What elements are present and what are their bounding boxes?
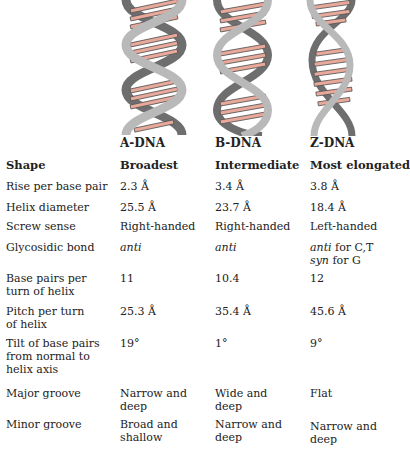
cell-bp-per-turn-z: 12 <box>310 272 324 285</box>
column-header-a-dna: A-DNA <box>120 137 165 150</box>
cell-pitch-z: 45.6 Å <box>310 305 346 318</box>
a-dna-helix-illustration <box>120 0 190 136</box>
column-header-z-dna: Z-DNA <box>310 137 354 150</box>
row-label-screw-sense: Screw sense <box>6 220 76 233</box>
cell-pitch-a: 25.3 Å <box>120 305 156 318</box>
z-dna-helix-illustration <box>302 0 360 136</box>
cell-shape-b: Intermediate <box>215 159 299 172</box>
cell-screw-b: Right-handed <box>215 220 290 233</box>
row-label-helix-diameter: Helix diameter <box>6 201 89 214</box>
value-line: deep <box>215 431 282 444</box>
value-line: Narrow and <box>215 418 282 431</box>
cell-diameter-z: 18.4 Å <box>310 201 346 214</box>
label-line: of helix <box>6 318 84 331</box>
b-dna-helix-illustration <box>212 0 274 136</box>
row-label-major-groove: Major groove <box>6 387 81 400</box>
cell-rise-b: 3.4 Å <box>215 180 244 193</box>
value-line: shallow <box>120 431 178 444</box>
cell-tilt-z: 9° <box>310 337 323 350</box>
anti-term: anti <box>310 241 332 254</box>
cell-glycosidic-z: anti for C,T syn for G <box>310 241 373 267</box>
cell-tilt-a: 19° <box>120 337 140 350</box>
value-line: deep <box>215 400 267 413</box>
label-line: turn of helix <box>6 285 87 298</box>
cell-minor-z: Narrow and deep <box>310 420 377 446</box>
cell-tilt-b: 1° <box>215 337 228 350</box>
cell-major-b: Wide and deep <box>215 387 267 413</box>
syn-suffix: for G <box>329 254 361 267</box>
label-line: helix axis <box>6 363 100 376</box>
cell-minor-a: Broad and shallow <box>120 418 178 444</box>
row-label-tilt: Tilt of base pairs from normal to helix … <box>6 337 100 376</box>
cell-major-z: Flat <box>310 387 332 400</box>
cell-shape-a: Broadest <box>120 159 178 172</box>
value-line: Narrow and <box>310 420 377 433</box>
row-label-minor-groove: Minor groove <box>6 418 82 431</box>
row-label-shape: Shape <box>6 159 45 172</box>
label-line: from normal to <box>6 350 100 363</box>
cell-rise-z: 3.8 Å <box>310 180 339 193</box>
cell-glycosidic-a: anti <box>120 241 142 254</box>
value-line: Broad and <box>120 418 178 431</box>
cell-major-a: Narrow and deep <box>120 387 187 413</box>
label-line: Pitch per turn <box>6 305 84 318</box>
cell-shape-z: Most elongated <box>310 159 410 172</box>
value-line: deep <box>310 433 377 446</box>
column-header-b-dna: B-DNA <box>215 137 261 150</box>
value-line: Narrow and <box>120 387 187 400</box>
cell-rise-a: 2.3 Å <box>120 180 149 193</box>
row-label-base-pairs-per-turn: Base pairs per turn of helix <box>6 272 87 298</box>
label-line: Base pairs per <box>6 272 87 285</box>
row-label-rise: Rise per base pair <box>6 180 107 193</box>
cell-minor-b: Narrow and deep <box>215 418 282 444</box>
label-line: Tilt of base pairs <box>6 337 100 350</box>
cell-screw-z: Left-handed <box>310 220 377 233</box>
anti-suffix: for C,T <box>332 241 374 254</box>
row-label-pitch-per-turn: Pitch per turn of helix <box>6 305 84 331</box>
value-line: deep <box>120 400 187 413</box>
cell-diameter-b: 23.7 Å <box>215 201 251 214</box>
cell-diameter-a: 25.5 Å <box>120 201 156 214</box>
cell-pitch-b: 35.4 Å <box>215 305 251 318</box>
cell-bp-per-turn-b: 10.4 <box>215 272 240 285</box>
syn-term: syn <box>310 254 329 267</box>
cell-bp-per-turn-a: 11 <box>120 272 134 285</box>
value-line: Wide and <box>215 387 267 400</box>
cell-screw-a: Right-handed <box>120 220 195 233</box>
row-label-glycosidic-bond: Glycosidic bond <box>6 241 94 254</box>
cell-glycosidic-b: anti <box>215 241 237 254</box>
